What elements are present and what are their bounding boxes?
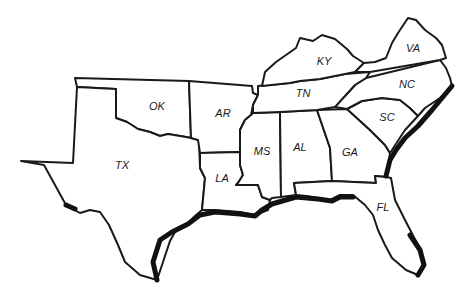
- label-va: VA: [406, 42, 420, 54]
- label-ky: KY: [317, 55, 332, 67]
- label-ar: AR: [215, 107, 230, 119]
- label-al: AL: [293, 141, 306, 153]
- label-sc: SC: [379, 111, 394, 123]
- southern-states-map: [0, 0, 476, 294]
- label-fl: FL: [377, 201, 390, 213]
- state-fl[interactable]: [294, 176, 424, 275]
- label-ok: OK: [149, 100, 165, 112]
- label-tn: TN: [296, 87, 311, 99]
- label-tx: TX: [115, 159, 129, 171]
- label-ms: MS: [254, 145, 271, 157]
- label-la: LA: [215, 172, 228, 184]
- label-nc: NC: [399, 78, 415, 90]
- label-ga: GA: [342, 146, 358, 158]
